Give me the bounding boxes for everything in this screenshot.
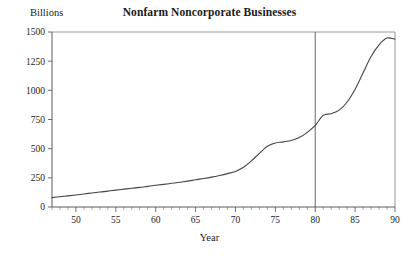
- x-tick-label: 80: [310, 215, 320, 225]
- axis-top-right: [52, 32, 395, 207]
- y-tick-label: 500: [31, 144, 46, 154]
- x-tick-label: 70: [231, 215, 241, 225]
- x-tick-label: 55: [111, 215, 121, 225]
- y-tick-label: 1500: [26, 27, 45, 37]
- x-tick-label: 60: [151, 215, 161, 225]
- y-tick-label: 1000: [26, 86, 45, 96]
- series-line: [52, 38, 395, 198]
- x-tick-label: 75: [271, 215, 281, 225]
- y-axis-ticks: 0250500750100012501500: [26, 27, 52, 212]
- y-tick-label: 750: [31, 115, 46, 125]
- axis-left-bottom: [52, 32, 395, 207]
- x-axis-ticks: 505560657075808590: [52, 207, 400, 225]
- x-tick-label: 65: [191, 215, 201, 225]
- y-tick-label: 0: [40, 202, 45, 212]
- x-tick-label: 85: [350, 215, 360, 225]
- x-tick-label: 50: [71, 215, 81, 225]
- y-tick-label: 250: [31, 173, 46, 183]
- y-tick-label: 1250: [26, 57, 45, 67]
- chart-figure: Nonfarm Noncorporate Businesses Billions…: [0, 0, 419, 259]
- plot-frame: [52, 32, 395, 207]
- x-tick-label: 90: [390, 215, 400, 225]
- data-series: [52, 38, 395, 198]
- plot-area: 0250500750100012501500 50556065707580859…: [0, 0, 419, 259]
